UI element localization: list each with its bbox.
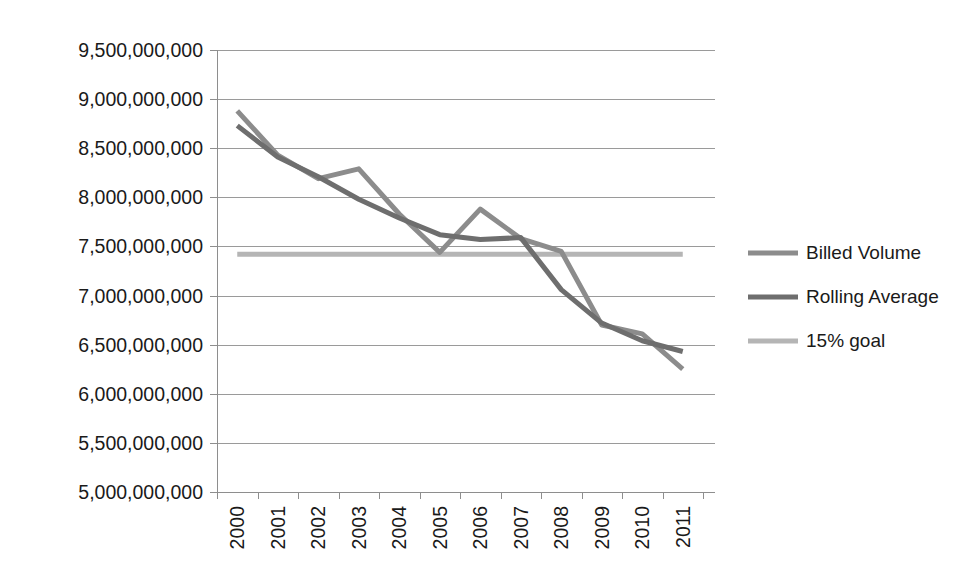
y-axis-tick-label: 6,000,000,000 [78, 383, 203, 405]
y-axis-tick-label: 5,000,000,000 [78, 481, 203, 503]
x-tick-labels-group: 2000200120022003200420052006200720082009… [226, 506, 694, 550]
x-axis-tick-label: 2000 [226, 506, 248, 550]
x-axis-tick-label: 2009 [591, 506, 613, 549]
x-axis-tick-label: 2008 [550, 506, 572, 549]
x-axis-tick-label: 2011 [672, 506, 694, 548]
y-tick-labels-group: 9,500,000,0009,000,000,0008,500,000,0008… [78, 39, 203, 503]
y-axis-tick-label: 9,000,000,000 [78, 88, 203, 110]
y-axis-tick-label: 8,000,000,000 [78, 186, 203, 208]
y-axis-tick-label: 5,500,000,000 [78, 432, 203, 454]
y-axis-tick-label: 7,000,000,000 [78, 285, 203, 307]
chart-container: 9,500,000,0009,000,000,0008,500,000,0008… [0, 0, 970, 578]
x-axis-tick-label: 2007 [510, 506, 532, 549]
x-axis-tick-label: 2010 [631, 506, 653, 550]
gridlines-group [217, 51, 715, 493]
x-axis-tick-label: 2001 [267, 506, 289, 549]
data-series-group [237, 111, 683, 369]
legend-item-label: 15% goal [806, 330, 885, 351]
x-axis-tick-label: 2005 [429, 506, 451, 550]
y-axis-line-group [210, 50, 218, 493]
x-axis-tick-label: 2004 [388, 506, 410, 550]
series-line-rolling-average [237, 126, 683, 352]
x-axis-tick-label: 2003 [348, 506, 370, 549]
x-axis-tick-label: 2006 [469, 506, 491, 549]
x-axis-tick-label: 2002 [307, 506, 329, 549]
x-axis-line-group [217, 492, 715, 499]
legend-item-label: Rolling Average [806, 286, 939, 307]
legend-item-label: Billed Volume [806, 242, 921, 263]
line-chart: 9,500,000,0009,000,000,0008,500,000,0008… [0, 0, 970, 578]
y-axis-tick-label: 7,500,000,000 [78, 235, 203, 257]
y-axis-tick-label: 8,500,000,000 [78, 137, 203, 159]
y-axis-tick-label: 9,500,000,000 [78, 39, 203, 61]
legend-group: Billed VolumeRolling Average15% goal [748, 242, 939, 351]
y-axis-tick-label: 6,500,000,000 [78, 334, 203, 356]
